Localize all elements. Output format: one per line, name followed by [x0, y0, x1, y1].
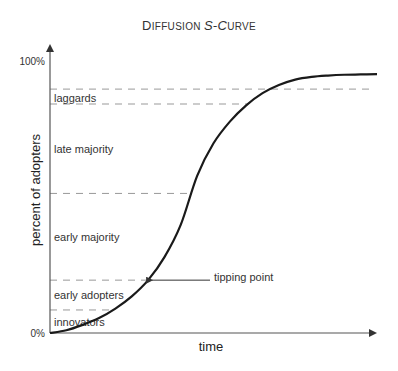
title-part: S-C [204, 18, 228, 33]
segment-boundaries [50, 89, 372, 310]
chart-title: DIFFUSION S-CURVE [142, 18, 256, 33]
title-part: IFFUSION [152, 21, 204, 32]
segment-label-early-majority: early majority [54, 231, 120, 243]
diffusion-s-curve-chart: DIFFUSION S-CURVE innovatorsearly adopte… [0, 0, 398, 371]
segment-label-laggards: laggards [54, 92, 97, 104]
y-tick-label-100: 100% [19, 56, 45, 67]
tipping-point-label: tipping point [214, 271, 273, 283]
y-axis-title: percent of adopters [28, 133, 43, 246]
y-tick-label-0: 0% [31, 328, 46, 339]
segment-label-early-adopters: early adopters [54, 289, 124, 301]
title-part: D [142, 18, 152, 33]
segment-labels: innovatorsearly adoptersearly majorityla… [54, 92, 124, 328]
segment-label-late-majority: late majority [54, 143, 114, 155]
title-part: URVE [227, 21, 256, 32]
x-axis-title: time [199, 339, 224, 354]
